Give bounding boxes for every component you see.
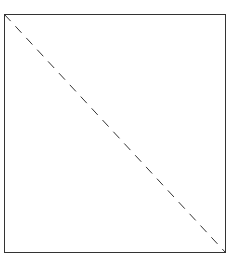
dashed-diagonal-line bbox=[5, 15, 226, 253]
diagram-canvas bbox=[0, 0, 228, 258]
